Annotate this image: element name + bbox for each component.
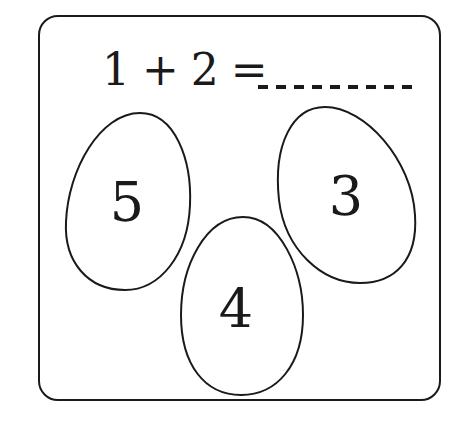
egg-option-5[interactable]: 5 bbox=[66, 113, 190, 290]
egg-label-3: 3 bbox=[329, 165, 363, 228]
egg-option-4[interactable]: 4 bbox=[181, 217, 303, 395]
egg-label-5: 5 bbox=[110, 171, 144, 234]
egg-label-4: 4 bbox=[219, 278, 253, 341]
egg-choices: 5 3 4 bbox=[0, 0, 466, 430]
egg-option-3[interactable]: 3 bbox=[278, 107, 415, 283]
